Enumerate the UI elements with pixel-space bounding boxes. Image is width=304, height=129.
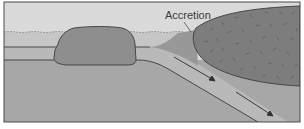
accretion-label: Accretion	[165, 9, 211, 21]
terrane-block	[54, 27, 136, 66]
subduction-accretion-diagram: Accretion	[0, 0, 304, 129]
